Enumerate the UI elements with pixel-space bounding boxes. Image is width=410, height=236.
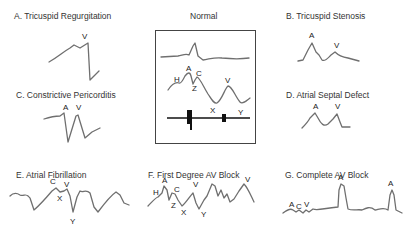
wave-label-a-2: A	[338, 173, 344, 182]
complete-av-block-waveform: A C V A A	[0, 0, 410, 236]
wave-label-c: C	[296, 202, 302, 211]
wave-label-a-3: A	[388, 179, 394, 188]
wave-label-v: V	[304, 200, 310, 209]
wave-label-a: A	[289, 200, 295, 209]
